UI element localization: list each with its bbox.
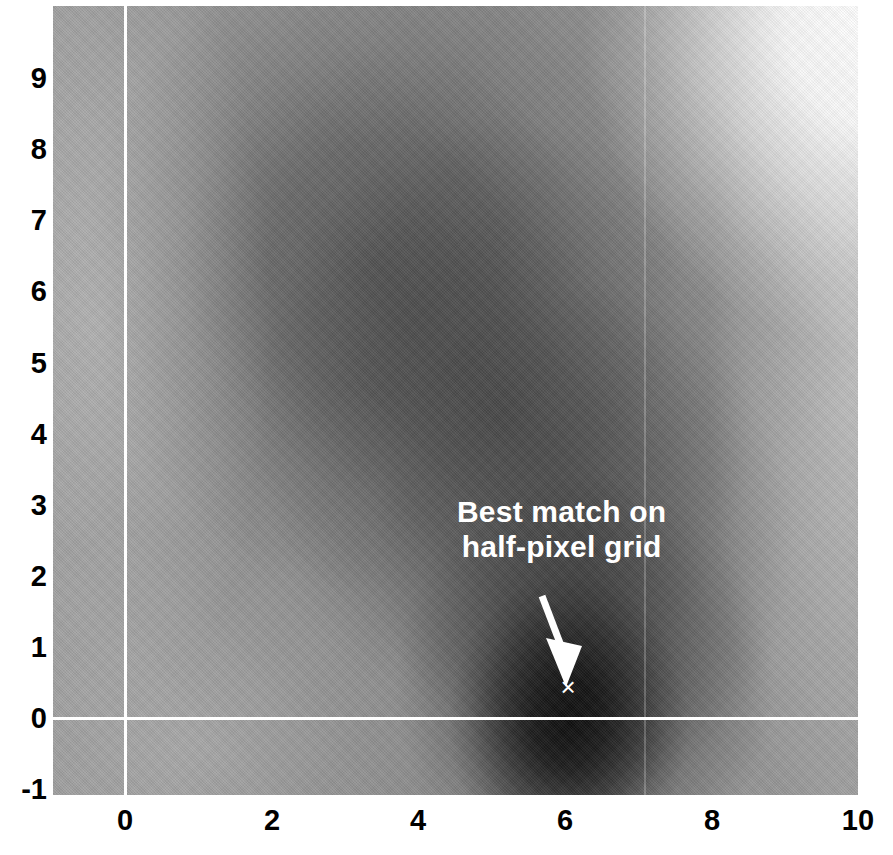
y-tick-label-2: 2 — [3, 562, 47, 591]
x-tick-label-4: 4 — [410, 806, 426, 835]
y-tick-label-3: 3 — [3, 491, 47, 520]
y-tick-label-7: 7 — [3, 206, 47, 235]
heatmap-plot-area: Best match on half-pixel grid × — [53, 6, 858, 795]
y-tick-label-6: 6 — [3, 277, 47, 306]
x-tick-label-10: 10 — [842, 806, 874, 835]
gridline-vertical-faint — [644, 6, 646, 795]
gridline-vertical-x0 — [124, 6, 127, 795]
y-tick-label-8: 8 — [3, 135, 47, 164]
y-tick-label-m1: -1 — [3, 775, 47, 804]
y-tick-label-1: 1 — [3, 633, 47, 662]
y-tick-label-0: 0 — [3, 704, 47, 733]
annotation-line-2: half-pixel grid — [457, 530, 666, 565]
x-axis: 0 2 4 6 8 10 — [0, 806, 893, 851]
y-tick-label-4: 4 — [3, 420, 47, 449]
x-tick-label-0: 0 — [117, 806, 133, 835]
x-tick-label-2: 2 — [264, 806, 280, 835]
y-tick-label-5: 5 — [3, 349, 47, 378]
best-match-marker[interactable]: × — [560, 674, 575, 700]
x-tick-label-6: 6 — [557, 806, 573, 835]
heatmap-surface-noise — [53, 6, 858, 795]
heatmap-figure: Best match on half-pixel grid × 9 8 7 6 … — [0, 0, 893, 855]
gridline-horizontal-y0 — [53, 717, 858, 720]
x-tick-label-8: 8 — [704, 806, 720, 835]
y-axis: 9 8 7 6 5 4 3 2 1 0 -1 — [0, 0, 47, 855]
y-tick-label-9: 9 — [3, 64, 47, 93]
best-match-annotation: Best match on half-pixel grid — [457, 495, 666, 565]
annotation-line-1: Best match on — [457, 495, 666, 530]
